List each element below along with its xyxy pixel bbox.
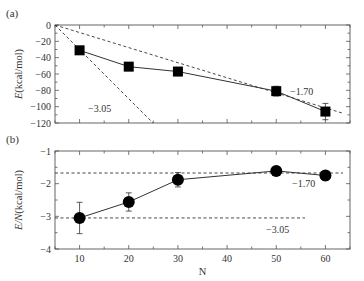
square-marker <box>271 86 281 96</box>
circle-marker <box>172 174 184 186</box>
figure: 0−20−40−60−80−100−120E(kcal/mol)(a)−3.05… <box>0 0 364 281</box>
y-tick-label: −20 <box>35 36 51 47</box>
panel-label: (a) <box>6 7 19 20</box>
y-tick-label: 0 <box>46 20 51 31</box>
panel-a: 0−20−40−60−80−100−120E(kcal/mol)(a)−3.05… <box>6 7 350 129</box>
circle-marker <box>123 196 135 208</box>
x-axis-title: N <box>199 266 207 277</box>
panel-label: (b) <box>6 133 19 146</box>
y-axis-unit: (kcal/mol) <box>13 169 25 213</box>
square-marker <box>124 62 134 72</box>
annotation-steep: −3.05 <box>88 103 111 114</box>
y-tick-label: −80 <box>35 85 51 96</box>
data-line <box>80 171 326 218</box>
annotation-shallow: −1.70 <box>290 86 313 97</box>
x-tick-label: 20 <box>124 253 134 264</box>
circle-marker <box>270 165 282 177</box>
x-tick-label: 30 <box>173 253 183 264</box>
y-tick-label: −120 <box>30 118 51 129</box>
square-marker <box>173 67 183 77</box>
x-tick-label: 40 <box>222 253 232 264</box>
y-tick-label: −3 <box>40 211 51 222</box>
plot-frame <box>55 151 350 249</box>
y-axis-variable: E/N <box>13 213 24 231</box>
x-tick-label: 60 <box>320 253 330 264</box>
y-tick-label: −60 <box>35 69 51 80</box>
y-axis-unit: (kcal/mol) <box>13 48 25 92</box>
reference-line-shallow <box>55 25 342 113</box>
y-tick-label: −1 <box>40 146 51 157</box>
x-tick-label: 50 <box>271 253 281 264</box>
y-tick-label: −2 <box>40 178 51 189</box>
annotation-bottom: −3.05 <box>266 224 289 235</box>
y-tick-label: −100 <box>30 101 51 112</box>
panel-b: 102030405060−1−2−3−4E/N(kcal/mol)(b)−1.7… <box>6 133 350 277</box>
square-marker <box>320 107 330 117</box>
annotation-top: −1.70 <box>292 178 315 189</box>
x-tick-label: 10 <box>75 253 85 264</box>
y-axis-title: E(kcal/mol) <box>13 48 25 100</box>
y-tick-label: −4 <box>40 244 51 255</box>
y-tick-label: −40 <box>35 52 51 63</box>
data-line <box>80 50 326 111</box>
circle-marker <box>74 212 86 224</box>
circle-marker <box>319 170 331 182</box>
y-axis-title: E/N(kcal/mol) <box>13 169 25 231</box>
square-marker <box>75 45 85 55</box>
